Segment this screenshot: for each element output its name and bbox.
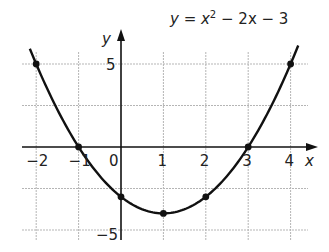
data-point (287, 61, 294, 68)
equation-title: y = x2 − 2x − 3 (169, 9, 288, 28)
x-tick-label: −2 (26, 152, 48, 170)
tick-labels: −2−1012345−5 (26, 56, 294, 244)
y-axis-label: y (101, 30, 112, 48)
x-tick-label: 1 (157, 152, 167, 170)
y-axis-arrow-icon (117, 29, 125, 41)
x-axis-label: x (304, 152, 314, 170)
data-point (202, 193, 209, 200)
data-point (75, 144, 82, 151)
equation-prefix: y = x (169, 10, 210, 28)
x-tick-label: 0 (109, 152, 119, 170)
axes (22, 29, 318, 240)
equation-suffix: − 2x − 3 (216, 10, 288, 28)
data-point (118, 193, 125, 200)
parabola-chart: −2−1012345−5 y x y = x2 − 2x − 3 (0, 0, 329, 252)
data-point (33, 61, 40, 68)
data-point (245, 144, 252, 151)
x-tick-label: 2 (200, 152, 210, 170)
x-axis-arrow-icon (306, 143, 318, 151)
y-tick-label: 5 (106, 56, 116, 74)
x-tick-label: 4 (285, 152, 295, 170)
y-tick-label: −5 (96, 226, 118, 244)
x-tick-label: −1 (69, 152, 91, 170)
x-tick-label: 3 (242, 152, 252, 170)
data-point (160, 210, 167, 217)
